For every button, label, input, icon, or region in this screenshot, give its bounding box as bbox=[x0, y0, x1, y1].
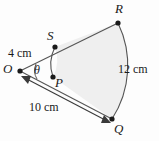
point-label-O: O bbox=[3, 62, 12, 75]
point-dot-S bbox=[52, 44, 57, 49]
point-label-P: P bbox=[55, 76, 63, 89]
measurement-label-outer-radius: 10 cm bbox=[29, 101, 59, 113]
point-label-S: S bbox=[47, 29, 54, 42]
point-label-Q: Q bbox=[114, 122, 123, 135]
inner-arc-SP bbox=[51, 47, 55, 77]
measurement-label-inner-radius: 4 cm bbox=[8, 47, 32, 59]
geometry-figure: R S P Q O 4 cm 10 cm 12 cm θ bbox=[0, 0, 159, 141]
angle-label-theta: θ bbox=[34, 64, 40, 76]
point-label-R: R bbox=[115, 2, 123, 15]
point-dot-O bbox=[17, 68, 22, 73]
measurement-label-arc-length: 12 cm bbox=[118, 63, 148, 75]
point-dot-R bbox=[115, 20, 120, 25]
shaded-sector-region bbox=[53, 23, 128, 119]
